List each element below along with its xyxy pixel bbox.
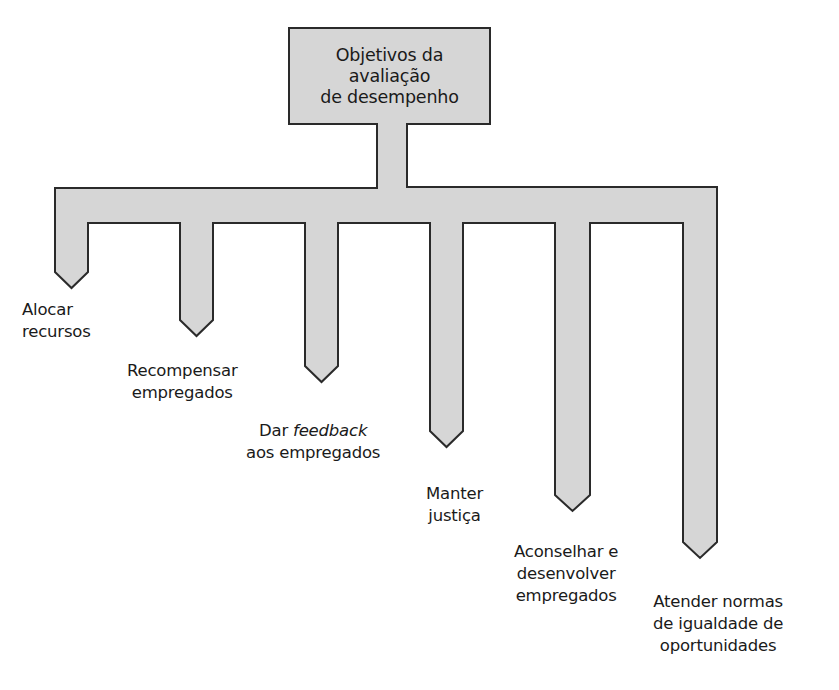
branch-3-line-1: Dar feedback [246,420,380,442]
branch-3-line-2: aos empregados [246,442,380,464]
root-title-line-2: avaliação [349,66,431,87]
branch-label-alocar-recursos: Alocar recursos [22,299,91,343]
branch-4-line-2: justiça [426,505,483,527]
branch-bar-shape [55,124,717,558]
branch-label-dar-feedback: Dar feedback aos empregados [246,420,380,464]
branch-3-prefix: Dar [259,421,293,440]
branch-6-line-3: oportunidades [653,635,783,657]
branch-5-line-3: empregados [514,585,618,607]
branch-1-line-1: Alocar [22,299,91,321]
branch-6-line-2: de igualdade de [653,613,783,635]
branch-label-atender-normas: Atender normas de igualdade de oportunid… [653,591,783,657]
branch-3-emphasis: feedback [293,421,367,440]
branch-4-line-1: Manter [426,483,483,505]
branch-5-line-1: Aconselhar e [514,541,618,563]
branch-label-aconselhar-desenvolver: Aconselhar e desenvolver empregados [514,541,618,607]
branch-5-line-2: desenvolver [514,563,618,585]
branch-2-line-1: Recompensar [127,360,238,382]
root-node: Objetivos da avaliação de desempenho [289,28,490,124]
branch-6-line-1: Atender normas [653,591,783,613]
branch-label-manter-justica: Manter justiça [426,483,483,527]
branch-label-recompensar-empregados: Recompensar empregados [127,360,238,404]
root-title-line-3: de desempenho [320,87,458,108]
branch-2-line-2: empregados [127,382,238,404]
branch-1-line-2: recursos [22,321,91,343]
root-title-line-1: Objetivos da [336,45,443,66]
